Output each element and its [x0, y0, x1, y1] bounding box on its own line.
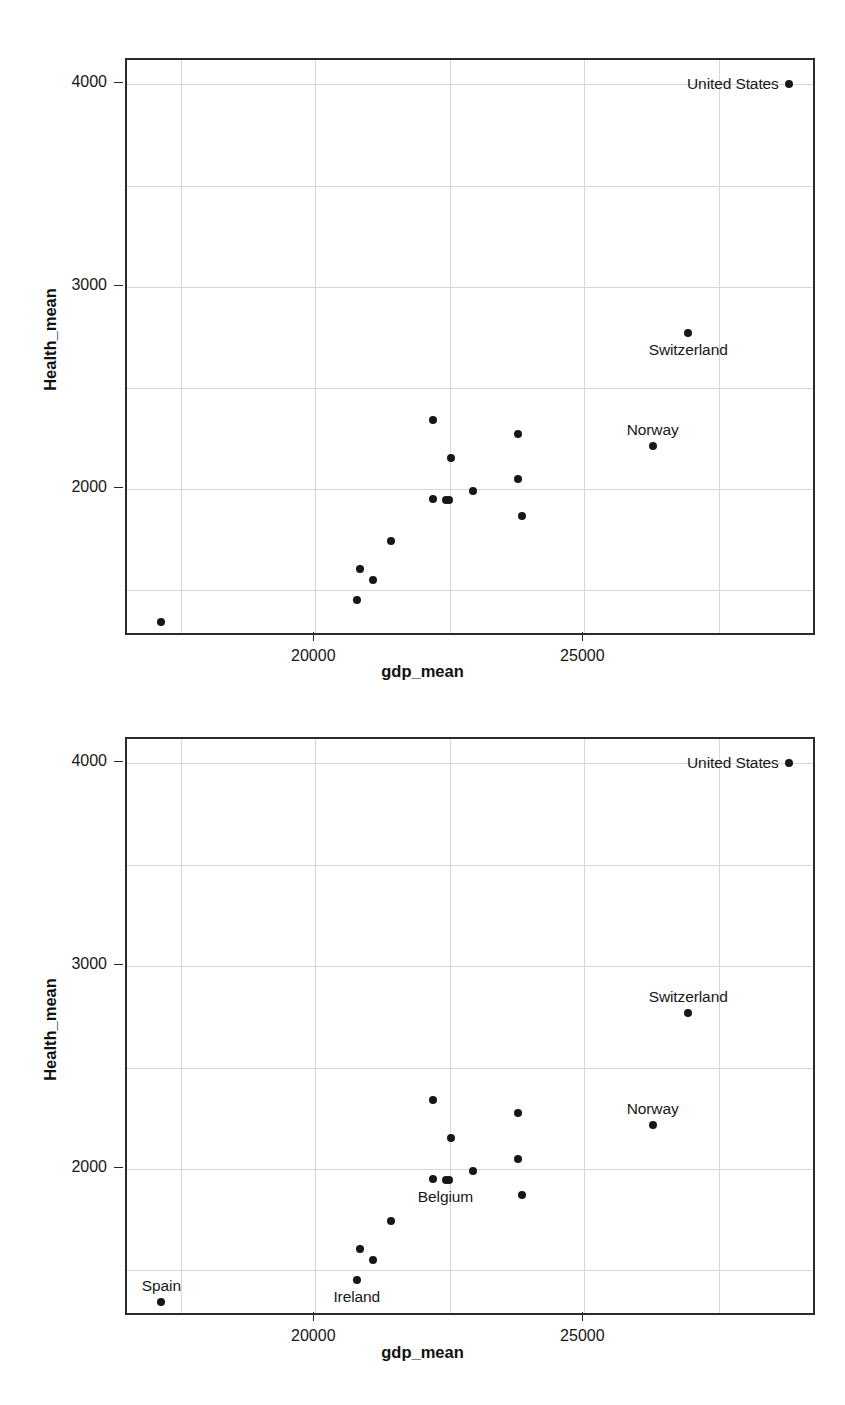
data-point: [429, 1175, 437, 1183]
scatter-panel-bottom: United StatesSwitzerlandNorwayBelgiumIre…: [0, 700, 845, 1405]
data-point: [785, 759, 793, 767]
data-point: [445, 496, 453, 504]
x-axis-title-top: gdp_mean: [0, 662, 845, 681]
y-axis-tick-mark: [114, 761, 123, 762]
gridline-vertical: [450, 60, 451, 633]
data-point: [684, 1009, 692, 1017]
x-axis-tick-label: 20000: [291, 647, 336, 665]
y-axis-tick-label: 3000: [17, 955, 107, 973]
y-axis-tick-label: 4000: [17, 73, 107, 91]
data-point: [157, 618, 165, 626]
gridline-horizontal: [127, 966, 813, 967]
data-point-label: Belgium: [418, 1188, 473, 1206]
scatter-panel-top: United StatesSwitzerlandNorway gdp_mean …: [0, 0, 845, 700]
y-axis-tick-label: 2000: [17, 478, 107, 496]
x-axis-tick-mark: [582, 632, 583, 641]
gridline-horizontal: [127, 186, 813, 187]
y-axis-tick-label: 2000: [17, 1158, 107, 1176]
data-point: [514, 430, 522, 438]
data-point: [469, 487, 477, 495]
data-point: [369, 576, 377, 584]
data-point: [518, 512, 526, 520]
data-point: [356, 565, 364, 573]
y-axis-tick-mark: [114, 1167, 123, 1168]
data-point-label: United States: [687, 75, 779, 93]
plot-area-top: United StatesSwitzerlandNorway: [125, 58, 815, 635]
plot-area-bottom: United StatesSwitzerlandNorwayBelgiumIre…: [125, 737, 815, 1315]
data-point-label: Switzerland: [649, 341, 728, 359]
data-point-label: Switzerland: [649, 988, 728, 1006]
data-point: [157, 1298, 165, 1306]
gridline-horizontal: [127, 287, 813, 288]
gridline-vertical: [584, 739, 585, 1313]
data-point-label: Spain: [142, 1277, 181, 1295]
data-point: [356, 1245, 364, 1253]
y-axis-tick-mark: [114, 964, 123, 965]
gridline-vertical: [315, 60, 316, 633]
gridline-horizontal: [127, 1270, 813, 1271]
gridline-vertical: [584, 60, 585, 633]
y-axis-tick-mark: [114, 285, 123, 286]
data-point: [353, 596, 361, 604]
data-point: [387, 537, 395, 545]
data-point-label: Ireland: [333, 1288, 380, 1306]
gridline-horizontal: [127, 865, 813, 866]
data-point: [469, 1167, 477, 1175]
data-point: [429, 416, 437, 424]
data-point: [514, 1155, 522, 1163]
gridline-vertical: [181, 739, 182, 1313]
y-axis-title-bottom: Health_mean: [41, 970, 60, 1090]
data-point: [785, 80, 793, 88]
y-axis-tick-label: 3000: [17, 276, 107, 294]
data-point-label: Norway: [627, 1100, 679, 1118]
data-point-label: Norway: [627, 421, 679, 439]
data-point: [445, 1176, 453, 1184]
x-axis-tick-label: 20000: [291, 1327, 336, 1345]
x-axis-tick-mark: [582, 1312, 583, 1321]
data-point: [649, 1121, 657, 1129]
gridline-vertical: [181, 60, 182, 633]
x-axis-tick-label: 25000: [560, 1327, 605, 1345]
y-axis-tick-label: 4000: [17, 752, 107, 770]
x-axis-tick-mark: [313, 632, 314, 641]
y-axis-tick-mark: [114, 82, 123, 83]
data-point: [369, 1256, 377, 1264]
x-axis-title-bottom: gdp_mean: [0, 1343, 845, 1362]
data-point: [649, 442, 657, 450]
data-point: [429, 495, 437, 503]
gridline-vertical: [719, 739, 720, 1313]
gridline-horizontal: [127, 1068, 813, 1069]
data-point: [514, 475, 522, 483]
gridline-vertical: [450, 739, 451, 1313]
data-point: [514, 1109, 522, 1117]
gridline-horizontal: [127, 590, 813, 591]
data-point: [387, 1217, 395, 1225]
data-point: [518, 1191, 526, 1199]
x-axis-tick-mark: [313, 1312, 314, 1321]
data-point: [684, 329, 692, 337]
gridline-vertical: [315, 739, 316, 1313]
data-point-label: United States: [687, 754, 779, 772]
y-axis-title-top: Health_mean: [41, 280, 60, 400]
data-point: [353, 1276, 361, 1284]
gridline-horizontal: [127, 388, 813, 389]
data-point: [429, 1096, 437, 1104]
y-axis-tick-mark: [114, 487, 123, 488]
data-point: [447, 1134, 455, 1142]
x-axis-tick-label: 25000: [560, 647, 605, 665]
data-point: [447, 454, 455, 462]
